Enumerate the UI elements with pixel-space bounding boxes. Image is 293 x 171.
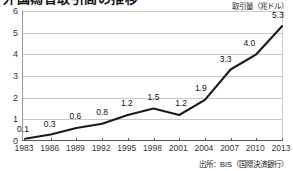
series-line	[23, 11, 284, 141]
x-axis-tickmark	[256, 138, 257, 141]
x-axis-tickmark	[231, 138, 232, 141]
page-title: 外国為替取引高の推移	[3, 0, 138, 7]
data-point-label: 1.2	[121, 98, 133, 108]
y-axis-tick-label: 5	[13, 28, 18, 38]
plot-area: 0.10.30.60.81.21.51.21.93.34.05.3	[22, 11, 283, 141]
x-axis-tick-label: 2004	[194, 143, 213, 153]
x-axis-tick-label: 1998	[143, 143, 162, 153]
y-axis-tick-label: 2	[13, 93, 18, 103]
x-axis-tick-label: 1983	[15, 143, 34, 153]
y-axis-tick-label: 3	[13, 71, 18, 81]
y-axis-ticks: 0123456	[0, 11, 20, 141]
x-axis-ticks: 1983198619891992199519982001200420072010…	[22, 143, 283, 157]
data-point-label: 1.9	[195, 83, 207, 93]
data-point-label: 4.0	[243, 38, 255, 48]
x-axis-tickmark	[25, 138, 26, 141]
data-point-label: 3.3	[220, 54, 232, 64]
x-axis-tickmark	[179, 138, 180, 141]
chart-title-clipped: 外国為替取引高の推移	[3, 0, 153, 7]
x-axis-tick-label: 2010	[246, 143, 265, 153]
data-point-label: 0.1	[17, 124, 29, 134]
x-axis-tickmark	[102, 138, 103, 141]
x-axis-tickmark	[51, 138, 52, 141]
x-axis-tick-label: 1995	[117, 143, 136, 153]
chart-figure: 外国為替取引高の推移 取引量（兆ドル） 0123456 0.10.30.60.8…	[0, 0, 293, 171]
y-axis-tick-label: 4	[13, 49, 18, 59]
source-note: 出所：BIS（国際決済銀行）	[199, 158, 288, 169]
y-axis-tick-label: 1	[13, 114, 18, 124]
data-point-label: 1.2	[175, 98, 187, 108]
x-axis-tick-label: 2013	[272, 143, 291, 153]
data-point-label: 1.5	[148, 92, 160, 102]
x-axis-tick-label: 1989	[66, 143, 85, 153]
x-axis-tick-label: 1992	[92, 143, 111, 153]
y-axis-tick-label: 6	[13, 6, 18, 16]
data-point-label: 0.6	[69, 111, 81, 121]
data-point-label: 5.3	[272, 10, 284, 20]
x-axis-tick-label: 2007	[220, 143, 239, 153]
x-axis-tickmark	[154, 138, 155, 141]
data-point-label: 0.3	[44, 119, 56, 129]
x-axis-tickmark	[76, 138, 77, 141]
x-axis-tickmark	[205, 138, 206, 141]
x-axis-tickmark	[282, 138, 283, 141]
x-axis-tickmark	[128, 138, 129, 141]
x-axis-tick-label: 1986	[40, 143, 59, 153]
x-axis-tick-label: 2001	[169, 143, 188, 153]
data-point-label: 0.8	[96, 107, 108, 117]
